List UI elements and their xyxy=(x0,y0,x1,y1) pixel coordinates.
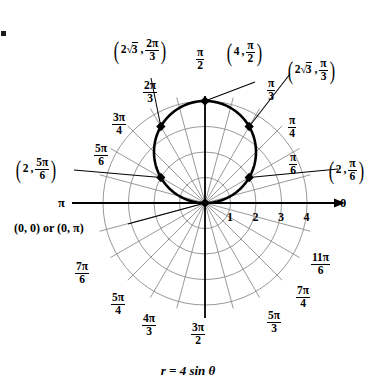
radial-tick-4: 4 xyxy=(304,210,310,225)
close-paren: ) xyxy=(358,160,363,181)
angle-label-five-pi-over-4: 5π4 xyxy=(111,292,125,316)
pole-coordinate-label: (0, 0) or (0, π) xyxy=(14,222,84,234)
angle-label-pi-over-6: π6 xyxy=(289,152,297,176)
angle-label-pi-over-3: π3 xyxy=(267,78,275,102)
fraction: π3 xyxy=(267,78,275,102)
label-point-2sqrt3-2pi-3: (2√3,2π3) xyxy=(112,38,168,62)
open-paren: ( xyxy=(16,159,21,180)
angle-label-seven-pi-over-4: 7π4 xyxy=(296,285,310,309)
fraction: π6 xyxy=(348,158,356,182)
close-paren: ) xyxy=(256,42,261,63)
fraction: 7π4 xyxy=(296,285,310,309)
polar-axis-zero-label: 0 xyxy=(340,196,346,211)
fraction: π3 xyxy=(319,58,327,82)
angle-label-three-pi-over-4: 3π4 xyxy=(112,112,126,136)
polar-graph-figure: π6π4π3π22π33π45π67π65π44π33π25π37π411π6 … xyxy=(0,0,376,390)
coordinate-pair: (2√3,2π3) xyxy=(112,38,168,62)
radial-tick-1: 1 xyxy=(227,210,233,225)
coordinate-pair: (2,π6) xyxy=(327,158,365,182)
angle-label-three-pi-over-2: 3π2 xyxy=(191,322,205,346)
pi-axis-label: π xyxy=(58,196,65,211)
open-paren: ( xyxy=(227,42,232,63)
fraction: 5π3 xyxy=(267,310,281,334)
fraction: π2 xyxy=(196,47,204,71)
fraction: 2π3 xyxy=(145,38,159,62)
fraction: π6 xyxy=(289,152,297,176)
fraction: π2 xyxy=(246,40,254,64)
label-point-2sqrt3-pi-3: (2√3,π3) xyxy=(286,58,336,82)
coordinate-pair: (4,π2) xyxy=(225,40,263,64)
label-point-2-5pi-6: (2,5π6) xyxy=(14,157,58,181)
fraction: 11π6 xyxy=(311,252,330,276)
fraction: 3π2 xyxy=(191,322,205,346)
angle-label-pi-over-2: π2 xyxy=(196,47,204,71)
close-paren: ) xyxy=(51,159,56,180)
angle-label-four-pi-over-3: 4π3 xyxy=(142,313,156,337)
open-paren: ( xyxy=(114,40,119,61)
fraction: 4π3 xyxy=(142,313,156,337)
close-paren: ) xyxy=(329,60,334,81)
coordinate-pair: (2√3,π3) xyxy=(286,58,336,82)
coordinate-pair: (2,5π6) xyxy=(14,157,58,181)
angle-label-five-pi-over-6: 5π6 xyxy=(94,143,108,167)
angle-label-five-pi-over-3: 5π3 xyxy=(267,310,281,334)
fraction: 2π3 xyxy=(143,80,157,104)
fraction: 7π6 xyxy=(75,261,89,285)
radial-tick-3: 3 xyxy=(278,210,284,225)
figure-caption: r = 4 sin θ xyxy=(0,363,376,379)
fraction: 3π4 xyxy=(112,112,126,136)
fraction: 5π6 xyxy=(35,157,49,181)
label-point-2-pi-6: (2,π6) xyxy=(327,158,365,182)
fraction: 5π4 xyxy=(111,292,125,316)
angle-label-two-pi-over-3: 2π3 xyxy=(143,80,157,104)
radial-tick-2: 2 xyxy=(253,210,259,225)
close-paren: ) xyxy=(161,40,166,61)
label-point-4-pi-2: (4,π2) xyxy=(225,40,263,64)
point-4-pi-2 xyxy=(200,96,209,105)
fraction: π4 xyxy=(288,115,296,139)
open-paren: ( xyxy=(329,160,334,181)
open-paren: ( xyxy=(288,60,293,81)
fraction: 5π6 xyxy=(94,143,108,167)
angle-label-seven-pi-over-6: 7π6 xyxy=(75,261,89,285)
caption-text: r = 4 sin θ xyxy=(161,363,216,378)
angle-label-pi-over-4: π4 xyxy=(288,115,296,139)
angle-label-eleven-pi-over-6: 11π6 xyxy=(311,252,330,276)
